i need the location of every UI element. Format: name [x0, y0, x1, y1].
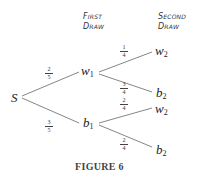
numerator: 2 — [120, 97, 128, 105]
prob-s-b1: 3 5 — [45, 119, 53, 133]
denominator: 5 — [45, 127, 53, 134]
numerator: 2 — [45, 66, 53, 74]
denominator: 4 — [120, 89, 128, 96]
header-second-line2: Draw — [158, 22, 186, 32]
denominator: 4 — [120, 52, 128, 59]
tree-diagram: First Draw Second Draw S w1 b1 w2 b2 w2 … — [0, 0, 199, 185]
header-second-line1: Second — [158, 12, 186, 22]
node-label: w — [81, 63, 90, 78]
numerator: 3 — [120, 81, 128, 89]
node-b1: b1 — [83, 116, 94, 133]
numerator: 2 — [120, 137, 128, 145]
node-w1: w1 — [81, 64, 94, 81]
header-first-line1: First — [83, 12, 104, 22]
prob-s-w1: 2 5 — [45, 66, 53, 80]
node-b1-w2: w2 — [155, 102, 168, 119]
node-subscript: 2 — [163, 92, 167, 101]
node-subscript: 2 — [164, 50, 168, 59]
numerator: 1 — [120, 44, 128, 52]
numerator: 3 — [45, 119, 53, 127]
node-label: S — [11, 90, 18, 105]
prob-w1-b2: 3 4 — [120, 81, 128, 95]
node-root: S — [11, 91, 18, 104]
denominator: 4 — [120, 105, 128, 112]
prob-b1-b2: 2 4 — [120, 137, 128, 151]
node-subscript: 2 — [163, 149, 167, 158]
node-label: w — [155, 101, 164, 116]
node-label: w — [155, 43, 164, 58]
figure-caption: FIGURE 6 — [0, 161, 199, 172]
header-first-draw: First Draw — [83, 12, 104, 32]
node-subscript: 1 — [90, 70, 94, 79]
prob-b1-w2: 2 4 — [120, 97, 128, 111]
prob-w1-w2: 1 4 — [120, 44, 128, 58]
header-first-line2: Draw — [83, 22, 104, 32]
node-subscript: 1 — [90, 122, 94, 131]
node-subscript: 2 — [164, 108, 168, 117]
denominator: 4 — [120, 145, 128, 152]
denominator: 5 — [45, 74, 53, 81]
node-w1-w2: w2 — [155, 44, 168, 61]
header-second-draw: Second Draw — [158, 12, 186, 32]
node-b1-b2: b2 — [156, 143, 167, 160]
